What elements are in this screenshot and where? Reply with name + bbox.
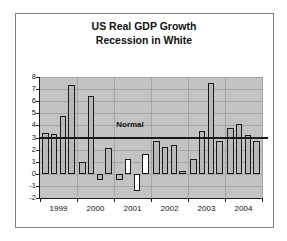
bar-2004-q3 xyxy=(245,135,252,174)
chart-image: US Real GDP Growth Recession in White 87… xyxy=(0,0,287,241)
bar-2000-q3 xyxy=(97,174,104,180)
x-tick-label-2003: 2003 xyxy=(188,204,225,213)
bar-1999-q1 xyxy=(42,133,49,174)
bar-2001-q1 xyxy=(116,174,123,180)
normal-reference-line xyxy=(39,137,268,139)
bar-1999-q4 xyxy=(68,85,75,173)
bar-1999-q3 xyxy=(60,116,67,174)
x-tick-label-2002: 2002 xyxy=(151,204,188,213)
bar-2001-q3 xyxy=(134,174,141,191)
y-tick-label--2: -2 xyxy=(17,194,36,202)
x-tick-0 xyxy=(40,198,41,202)
x-tick-label-2004: 2004 xyxy=(225,204,262,213)
bar-2004-q2 xyxy=(236,124,243,174)
x-tick-label-2000: 2000 xyxy=(77,204,114,213)
y-tick-label-1: 1 xyxy=(17,158,36,166)
bar-2003-q1 xyxy=(190,159,197,174)
y-tick-5 xyxy=(36,113,39,114)
x-tick-5 xyxy=(225,198,226,202)
y-tick--2 xyxy=(36,198,39,199)
y-tick-7 xyxy=(36,89,39,90)
y-tick-0 xyxy=(36,174,39,175)
y-tick--1 xyxy=(36,186,39,187)
bar-2004-q1 xyxy=(227,128,234,174)
x-tick-6 xyxy=(262,198,263,202)
y-tick-1 xyxy=(36,162,39,163)
y-tick-label-2: 2 xyxy=(17,146,36,154)
bar-2001-q2 xyxy=(125,159,132,174)
bar-2000-q2 xyxy=(88,96,95,173)
y-tick-label--1: -1 xyxy=(17,182,36,190)
y-tick-label-8: 8 xyxy=(17,73,36,81)
bar-1999-q2 xyxy=(51,134,58,174)
x-tick-3 xyxy=(151,198,152,202)
y-tick-6 xyxy=(36,101,39,102)
bar-2000-q1 xyxy=(79,162,86,174)
x-tick-2 xyxy=(114,198,115,202)
x-tick-label-2001: 2001 xyxy=(114,204,151,213)
x-tick-1 xyxy=(77,198,78,202)
bar-2002-q1 xyxy=(153,141,160,174)
y-tick-2 xyxy=(36,150,39,151)
normal-line-label: Normal xyxy=(100,120,160,129)
bar-2002-q2 xyxy=(162,147,169,174)
bar-2002-q3 xyxy=(171,145,178,174)
y-tick-label-7: 7 xyxy=(17,85,36,93)
bar-2002-q4 xyxy=(179,171,186,173)
bar-2003-q3 xyxy=(208,83,215,174)
y-tick-label-0: 0 xyxy=(17,170,36,178)
y-tick-label-6: 6 xyxy=(17,97,36,105)
y-tick-label-5: 5 xyxy=(17,109,36,117)
bar-2004-q4 xyxy=(253,141,260,174)
x-tick-label-1999: 1999 xyxy=(40,204,77,213)
bar-2003-q4 xyxy=(216,141,223,174)
y-tick-4 xyxy=(36,125,39,126)
y-tick-label-4: 4 xyxy=(17,121,36,129)
bar-2001-q4 xyxy=(142,154,149,173)
y-tick-label-3: 3 xyxy=(17,134,36,142)
bar-2000-q4 xyxy=(105,148,112,173)
y-tick-8 xyxy=(36,77,39,78)
x-tick-4 xyxy=(188,198,189,202)
